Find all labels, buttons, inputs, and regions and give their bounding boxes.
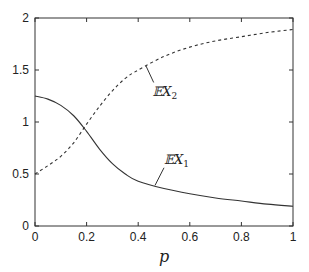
- axes: 00.20.40.60.8100.511.52: [12, 11, 296, 244]
- series-lines: [35, 29, 293, 206]
- series-label-ex1: 𝔼X1: [164, 152, 189, 169]
- x-axis-label: p: [159, 247, 169, 266]
- x-tick-label: 0.8: [233, 230, 250, 244]
- label-leader-line: [146, 66, 154, 83]
- x-tick-label: 0.2: [78, 230, 95, 244]
- y-tick-label: 2: [22, 11, 29, 25]
- label-leader-line: [155, 168, 164, 186]
- y-tick-label: 1: [22, 115, 29, 129]
- plot-frame: [35, 18, 293, 226]
- x-tick-label: 0.4: [130, 230, 147, 244]
- line-chart: 00.20.40.60.8100.511.52 𝔼X1𝔼X2 p: [0, 0, 309, 272]
- x-tick-label: 1: [290, 230, 297, 244]
- x-tick-label: 0.6: [181, 230, 198, 244]
- series-label-ex2: 𝔼X2: [152, 84, 177, 101]
- x-tick-label: 0: [32, 230, 39, 244]
- series-labels: 𝔼X1𝔼X2: [146, 66, 189, 186]
- y-tick-label: 1.5: [12, 63, 29, 77]
- y-tick-label: 0: [22, 219, 29, 233]
- y-tick-label: 0.5: [12, 167, 29, 181]
